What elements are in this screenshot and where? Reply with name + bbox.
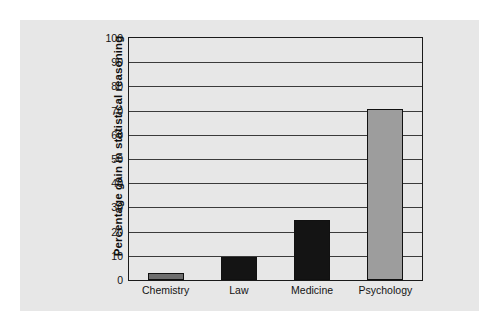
y-tick-label: 20 xyxy=(111,226,123,238)
x-tick-label: Law xyxy=(229,284,248,296)
plot-area: 0102030405060708090100 ChemistryLawMedic… xyxy=(128,37,423,281)
y-tick-label: 10 xyxy=(111,250,123,262)
y-tick-label: 80 xyxy=(111,80,123,92)
figure-root: Percentage gain in statistical reasoning… xyxy=(0,0,499,328)
y-tick-label: 70 xyxy=(111,105,123,117)
bar-group-law: Law xyxy=(202,38,275,280)
y-tick-label: 60 xyxy=(111,129,123,141)
bar-group-chemistry: Chemistry xyxy=(129,38,202,280)
bars-layer: ChemistryLawMedicinePsychology xyxy=(129,38,422,280)
x-tick-label: Psychology xyxy=(359,284,413,296)
x-tick-label: Chemistry xyxy=(142,284,189,296)
bar-law xyxy=(221,257,257,280)
y-tick-label: 0 xyxy=(117,274,123,286)
bar-medicine xyxy=(294,220,330,281)
figure-panel: Percentage gain in statistical reasoning… xyxy=(20,20,479,311)
y-tick-label: 30 xyxy=(111,201,123,213)
bar-psychology xyxy=(367,109,403,280)
x-tick-label: Medicine xyxy=(291,284,333,296)
bar-group-psychology: Psychology xyxy=(349,38,422,280)
y-tick-label: 90 xyxy=(111,56,123,68)
bar-chemistry xyxy=(148,273,184,280)
y-tick-label: 100 xyxy=(105,32,123,44)
y-tick-label: 50 xyxy=(111,153,123,165)
bar-group-medicine: Medicine xyxy=(276,38,349,280)
y-tick-label: 40 xyxy=(111,177,123,189)
